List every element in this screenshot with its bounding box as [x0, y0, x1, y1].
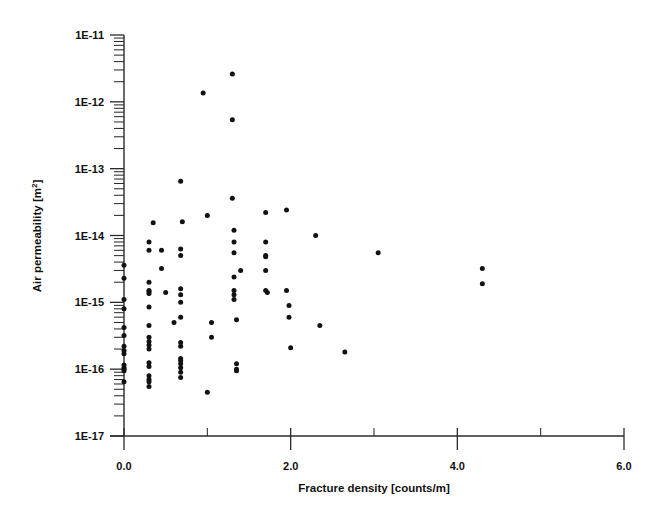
y-tick-label: 1E-12 — [75, 96, 104, 108]
data-point — [147, 289, 152, 294]
data-point — [147, 384, 152, 389]
data-point — [172, 320, 177, 325]
y-axis-tick-labels: 1E-171E-161E-151E-141E-131E-121E-11 — [75, 29, 105, 442]
scatter-plot-figure: 1E-171E-161E-151E-141E-131E-121E-11 0.02… — [0, 0, 662, 522]
x-axis-title: Fracture density [counts/m] — [298, 482, 450, 494]
data-point — [288, 345, 293, 350]
data-point — [122, 276, 127, 281]
y-tick-label: 1E-16 — [75, 363, 104, 375]
data-point — [287, 303, 292, 308]
data-point — [147, 347, 152, 352]
y-axis-title: Air permeability [m2] — [30, 180, 43, 293]
data-point — [230, 196, 235, 201]
data-point — [178, 358, 183, 363]
data-point — [284, 208, 289, 213]
axis-spines — [110, 35, 624, 436]
y-tick-label: 1E-14 — [75, 230, 105, 242]
x-tick-label: 0.0 — [116, 460, 131, 472]
data-point — [122, 263, 127, 268]
data-point — [178, 315, 183, 320]
data-point — [178, 365, 183, 370]
data-point — [209, 335, 214, 340]
data-point — [205, 213, 210, 218]
data-point — [263, 210, 268, 215]
data-point — [263, 268, 268, 273]
x-tick-label: 6.0 — [616, 460, 631, 472]
y-axis-ticks — [110, 35, 124, 436]
data-point — [178, 370, 183, 375]
x-tick-label: 2.0 — [283, 460, 298, 472]
data-point — [232, 297, 237, 302]
data-point — [263, 239, 268, 244]
data-point — [317, 323, 322, 328]
data-point — [178, 300, 183, 305]
data-point — [147, 323, 152, 328]
data-point — [284, 288, 289, 293]
data-point — [201, 91, 206, 96]
data-point — [178, 286, 183, 291]
data-point — [147, 239, 152, 244]
data-point — [147, 280, 152, 285]
plot-canvas: 1E-171E-161E-151E-141E-131E-121E-11 0.02… — [0, 0, 662, 522]
data-point — [209, 320, 214, 325]
data-point — [147, 305, 152, 310]
data-point-markers — [122, 72, 485, 395]
data-point — [147, 379, 152, 384]
data-point — [159, 248, 164, 253]
data-point — [232, 292, 237, 297]
data-point — [232, 228, 237, 233]
data-point — [151, 220, 156, 225]
data-point — [122, 306, 127, 311]
y-tick-label: 1E-15 — [75, 296, 104, 308]
data-point — [230, 117, 235, 122]
data-point — [205, 390, 210, 395]
data-point — [178, 292, 183, 297]
data-point — [147, 364, 152, 369]
data-point — [234, 361, 239, 366]
data-point — [238, 268, 243, 273]
data-point — [232, 274, 237, 279]
y-tick-label: 1E-11 — [75, 29, 104, 41]
data-point — [263, 254, 268, 259]
data-point — [232, 239, 237, 244]
data-point — [122, 348, 127, 353]
data-point — [342, 350, 347, 355]
x-axis-tick-labels: 0.02.04.06.0 — [116, 460, 631, 472]
data-point — [313, 233, 318, 238]
data-point — [122, 379, 127, 384]
data-point — [230, 72, 235, 77]
y-tick-label: 1E-13 — [75, 163, 104, 175]
data-point — [147, 248, 152, 253]
data-point — [178, 253, 183, 258]
data-point — [376, 250, 381, 255]
data-point — [147, 335, 152, 340]
data-point — [178, 246, 183, 251]
data-point — [265, 290, 270, 295]
data-point — [122, 325, 127, 330]
data-point — [122, 297, 127, 302]
data-point — [287, 315, 292, 320]
data-point — [480, 281, 485, 286]
data-point — [159, 266, 164, 271]
y-axis-title-group: Air permeability [m2] — [30, 180, 43, 293]
data-point — [234, 317, 239, 322]
data-point — [122, 333, 127, 338]
y-tick-label: 1E-17 — [75, 430, 104, 442]
x-axis-ticks — [124, 428, 624, 450]
x-tick-label: 4.0 — [450, 460, 465, 472]
data-point — [180, 219, 185, 224]
data-point — [122, 344, 127, 349]
data-point — [178, 179, 183, 184]
data-point — [178, 375, 183, 380]
data-point — [480, 266, 485, 271]
data-point — [234, 367, 239, 372]
data-point — [122, 367, 127, 372]
data-point — [232, 250, 237, 255]
data-point — [178, 344, 183, 349]
data-point — [163, 290, 168, 295]
